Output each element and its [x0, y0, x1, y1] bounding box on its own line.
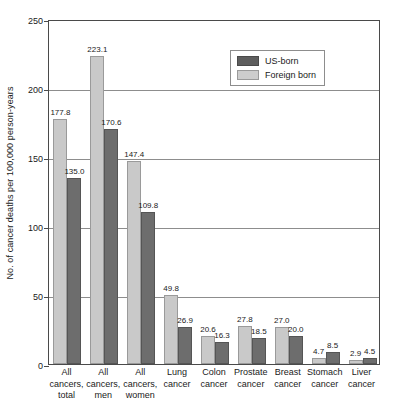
bar-wrap-us: 16.3 — [215, 21, 229, 364]
bar-value-label: 8.5 — [327, 342, 338, 350]
x-axis-label-line: women — [119, 390, 162, 402]
bar-wrap-us: 170.6 — [104, 21, 118, 364]
bar-group: 2.94.5 — [349, 21, 377, 364]
bar-us — [141, 212, 155, 364]
x-axis-label-line: Liver — [340, 367, 383, 379]
bar-value-label: 170.6 — [101, 119, 121, 127]
legend-label-us-born: US-born — [265, 56, 299, 66]
bar-group: 49.826.9 — [164, 21, 192, 364]
bar-value-label: 27.8 — [237, 316, 253, 324]
bar-wrap-foreign: 20.6 — [201, 21, 215, 364]
x-axis-label-line: cancer — [340, 379, 383, 391]
chart-legend: US-born Foreign born — [230, 50, 325, 86]
bar-foreign — [201, 336, 215, 364]
bar-wrap-us: 109.8 — [141, 21, 155, 364]
bar-us — [104, 129, 118, 364]
bar-value-label: 26.9 — [177, 317, 193, 325]
x-axis-label: Livercancer — [340, 367, 383, 390]
cancer-mortality-bar-chart: No. of cancer deaths per 100,000 person-… — [0, 0, 393, 418]
bar-foreign — [53, 119, 67, 364]
legend-label-foreign-born: Foreign born — [265, 70, 316, 80]
bar-value-label: 27.0 — [274, 317, 290, 325]
y-axis-title-text: No. of cancer deaths per 100,000 person-… — [5, 86, 15, 279]
bar-value-label: 4.5 — [364, 348, 375, 356]
bar-group: 177.8135.0 — [53, 21, 81, 364]
bar-foreign — [349, 360, 363, 364]
bar-foreign — [275, 327, 289, 364]
bar-value-label: 16.3 — [214, 332, 230, 340]
bar-value-label: 20.0 — [288, 326, 304, 334]
bar-us — [252, 338, 266, 364]
bar-value-label: 18.5 — [251, 328, 267, 336]
x-axis-labels: Allcancers,totalAllcancers,menAllcancers… — [48, 367, 380, 417]
legend-item-foreign-born: Foreign born — [237, 70, 316, 80]
bar-value-label: 49.8 — [163, 285, 179, 293]
bar-us — [178, 327, 192, 364]
y-axis-title: No. of cancer deaths per 100,000 person-… — [0, 0, 20, 365]
bar-group: 147.4109.8 — [127, 21, 155, 364]
bar-wrap-foreign: 49.8 — [164, 21, 178, 364]
bar-wrap-us: 26.9 — [178, 21, 192, 364]
bar-us — [215, 342, 229, 364]
legend-swatch-us-born — [237, 56, 259, 66]
bar-foreign — [90, 56, 104, 364]
bar-value-label: 135.0 — [64, 168, 84, 176]
bar-wrap-us: 8.5 — [326, 21, 340, 364]
bar-foreign — [238, 326, 252, 364]
bar-value-label: 4.7 — [313, 348, 324, 356]
bar-group: 20.616.3 — [201, 21, 229, 364]
bar-wrap-foreign: 2.9 — [349, 21, 363, 364]
legend-item-us-born: US-born — [237, 56, 316, 66]
bar-foreign — [164, 295, 178, 364]
bar-us — [289, 336, 303, 364]
bar-wrap-us: 4.5 — [363, 21, 377, 364]
bar-value-label: 109.8 — [138, 202, 158, 210]
bar-wrap-us: 135.0 — [67, 21, 81, 364]
legend-swatch-foreign-born — [237, 70, 259, 80]
bar-foreign — [127, 161, 141, 364]
bar-us — [67, 178, 81, 364]
bar-us — [363, 358, 377, 364]
bar-us — [326, 352, 340, 364]
bar-wrap-foreign: 177.8 — [53, 21, 67, 364]
bar-value-label: 2.9 — [350, 350, 361, 358]
bar-wrap-foreign: 147.4 — [127, 21, 141, 364]
bar-foreign — [312, 358, 326, 364]
bar-wrap-foreign: 223.1 — [90, 21, 104, 364]
bar-group: 223.1170.6 — [90, 21, 118, 364]
bars-layer: 177.8135.0223.1170.6147.4109.849.826.920… — [49, 21, 379, 364]
plot-area: 050100150200250 177.8135.0223.1170.6147.… — [48, 20, 380, 365]
